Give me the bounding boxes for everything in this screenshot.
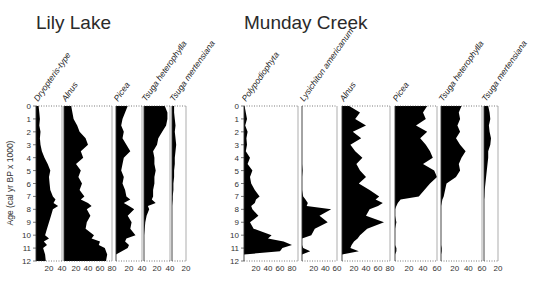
y-tick-label: 12: [22, 257, 31, 266]
y-tick-label: 11: [231, 244, 240, 253]
series-area-polypodiophyta: [244, 106, 292, 261]
series-area-lysichiton-americanum: [302, 106, 331, 261]
y-tick-label: 6: [235, 180, 240, 189]
pollen-diagram: Age (cal yr BP x 1000) 01234567891011122…: [0, 0, 540, 281]
y-tick-label: 9: [27, 218, 32, 227]
series-area-dryopteris-type: [36, 106, 58, 261]
x-tick-label: 40: [264, 264, 273, 273]
x-tick-label: 40: [138, 264, 147, 273]
series-area-tsuga-mertensiana: [172, 106, 176, 261]
y-tick-label: 1: [27, 115, 32, 124]
x-tick-label: 20: [182, 264, 191, 273]
x-tick-label: 20: [405, 264, 414, 273]
x-tick-label: 20: [350, 264, 359, 273]
x-tick-label: 40: [321, 264, 330, 273]
x-tick-label: 40: [84, 264, 93, 273]
series-area-alnus: [64, 106, 107, 261]
y-tick-label: 10: [230, 231, 239, 240]
x-tick-label: 20: [125, 264, 134, 273]
x-tick-label: 60: [433, 264, 442, 273]
x-tick-label: 60: [478, 264, 487, 273]
x-tick-label: 40: [58, 264, 67, 273]
x-tick-label: 20: [72, 264, 81, 273]
taxon-label: Picea: [390, 80, 411, 103]
y-tick-label: 4: [27, 154, 32, 163]
y-tick-label: 2: [27, 128, 32, 137]
x-tick-label: 60: [333, 264, 342, 273]
series-area-tsuga-heterophylla: [441, 106, 466, 261]
y-tick-label: 6: [27, 180, 32, 189]
series-area-tsuga-mertensiana: [484, 106, 491, 261]
taxon-label: Tsuga heterophylla: [436, 39, 485, 104]
y-tick-label: 0: [235, 102, 240, 111]
x-tick-label: 40: [419, 264, 428, 273]
series-area-picea: [395, 106, 437, 261]
x-tick-label: 20: [494, 264, 503, 273]
y-tick-label: 3: [235, 141, 240, 150]
y-tick-label: 5: [27, 167, 32, 176]
x-tick-label: 60: [374, 264, 383, 273]
x-tick-label: 80: [288, 264, 297, 273]
x-tick-label: 80: [386, 264, 395, 273]
y-tick-label: 8: [235, 205, 240, 214]
series-area-tsuga-heterophylla: [144, 106, 167, 261]
x-tick-label: 20: [153, 264, 162, 273]
x-tick-label: 20: [309, 264, 318, 273]
x-tick-label: 40: [166, 264, 175, 273]
x-tick-label: 20: [45, 264, 54, 273]
taxon-label: Picea: [111, 80, 132, 103]
y-axis-title: Age (cal yr BP x 1000): [5, 140, 15, 225]
y-tick-label: 8: [27, 205, 32, 214]
y-tick-label: 2: [235, 128, 240, 137]
y-tick-label: 1: [235, 115, 240, 124]
taxon-label: Alnus: [337, 79, 358, 104]
y-tick-label: 0: [27, 102, 32, 111]
series-area-alnus: [342, 106, 384, 261]
x-tick-label: 60: [96, 264, 105, 273]
taxon-label: Alnus: [59, 79, 80, 104]
x-tick-label: 40: [464, 264, 473, 273]
y-tick-label: 10: [22, 231, 31, 240]
y-tick-label: 9: [235, 218, 240, 227]
y-tick-label: 12: [230, 257, 239, 266]
y-tick-label: 11: [23, 244, 32, 253]
series-area-picea: [116, 106, 136, 261]
x-tick-label: 20: [252, 264, 261, 273]
y-tick-label: 7: [27, 192, 32, 201]
taxon-label: Polypodiophyta: [239, 50, 281, 104]
x-tick-label: 40: [362, 264, 371, 273]
y-tick-label: 5: [235, 167, 240, 176]
y-tick-label: 4: [235, 154, 240, 163]
taxon-label: Tsuga mertensiana: [479, 38, 529, 103]
x-tick-label: 80: [108, 264, 117, 273]
x-tick-label: 60: [276, 264, 285, 273]
y-tick-label: 7: [235, 192, 240, 201]
x-tick-label: 20: [450, 264, 459, 273]
y-tick-label: 3: [27, 141, 32, 150]
